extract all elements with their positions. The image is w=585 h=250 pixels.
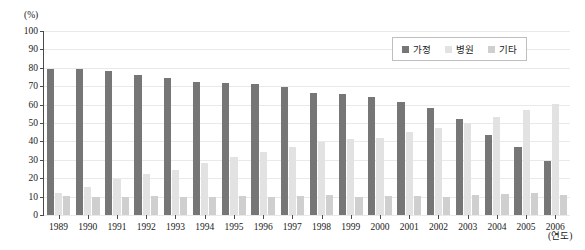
y-axis-tick-label: 0	[33, 210, 38, 220]
bar-hospital	[406, 132, 413, 215]
bar-hospital	[113, 179, 120, 215]
bar-hospital	[143, 174, 150, 215]
bar-other	[560, 195, 567, 215]
x-axis-tick	[409, 215, 410, 219]
x-axis-tick	[351, 215, 352, 219]
bar-home	[339, 94, 346, 215]
bar-home	[193, 82, 200, 215]
x-axis-tick-label: 2003	[458, 222, 477, 232]
bar-hospital	[55, 193, 62, 215]
legend-item-other: 기타	[488, 42, 517, 56]
x-axis-tick-label: 2004	[487, 222, 506, 232]
bar-hospital	[464, 123, 471, 215]
bar-home	[514, 147, 521, 215]
bar-home	[427, 108, 434, 215]
bar-hospital	[376, 138, 383, 215]
bar-other	[209, 197, 216, 215]
bar-other	[531, 193, 538, 215]
bar-group: 1996	[249, 31, 278, 215]
x-axis-caption: (연도)	[548, 228, 572, 242]
bar-group: 1995	[219, 31, 248, 215]
bar-group: 1991	[102, 31, 131, 215]
x-axis-tick	[380, 215, 381, 219]
y-axis-tick-label: 40	[29, 136, 39, 146]
x-axis-tick-label: 1998	[312, 222, 331, 232]
bar-home	[544, 161, 551, 215]
bar-other	[385, 196, 392, 215]
y-axis-tick-label: 50	[29, 118, 39, 128]
bar-group: 1999	[336, 31, 365, 215]
bar-home	[281, 87, 288, 215]
gridline: 0	[44, 215, 570, 216]
legend-label-hospital: 병원	[456, 42, 474, 56]
x-axis-tick	[555, 215, 556, 219]
bar-other	[63, 196, 70, 215]
y-axis-tick-label: 10	[29, 192, 39, 202]
y-axis-tick-label: 30	[29, 155, 39, 165]
bar-other	[326, 195, 333, 215]
x-axis-tick	[438, 215, 439, 219]
x-axis-tick	[292, 215, 293, 219]
x-axis-tick	[322, 215, 323, 219]
chart-legend: 가정 병원 기타	[392, 37, 527, 61]
bar-other	[268, 197, 275, 215]
legend-swatch-home-icon	[402, 46, 409, 53]
bar-group: 1992	[132, 31, 161, 215]
x-axis-tick	[205, 215, 206, 219]
x-axis-tick	[88, 215, 89, 219]
bar-group: 1997	[278, 31, 307, 215]
x-axis-tick-label: 1994	[195, 222, 214, 232]
bar-other	[501, 194, 508, 215]
bar-hospital	[230, 157, 237, 215]
x-axis-tick	[59, 215, 60, 219]
bar-home	[164, 78, 171, 215]
bar-hospital	[84, 187, 91, 215]
bar-home	[397, 102, 404, 215]
bar-hospital	[552, 104, 559, 215]
x-axis-tick-label: 2002	[429, 222, 448, 232]
x-axis-tick-label: 1995	[224, 222, 243, 232]
bar-other	[239, 196, 246, 215]
x-axis-tick-label: 1990	[78, 222, 97, 232]
bar-home	[134, 75, 141, 215]
x-axis-tick	[526, 215, 527, 219]
x-axis-tick	[263, 215, 264, 219]
x-axis-tick	[117, 215, 118, 219]
bar-home	[456, 119, 463, 215]
x-axis-tick-label: 1993	[166, 222, 185, 232]
bar-other	[151, 196, 158, 215]
x-axis-tick	[175, 215, 176, 219]
x-axis-tick-label: 2001	[400, 222, 419, 232]
bar-group: 1994	[190, 31, 219, 215]
legend-swatch-hospital-icon	[445, 46, 452, 53]
bar-group: 1998	[307, 31, 336, 215]
bar-hospital	[435, 128, 442, 215]
bar-hospital	[260, 152, 267, 215]
bar-hospital	[172, 170, 179, 215]
bar-group: 1993	[161, 31, 190, 215]
bar-other	[122, 197, 129, 215]
bar-group: 2000	[365, 31, 394, 215]
y-axis-tick	[40, 215, 44, 216]
x-axis-tick-label: 1991	[108, 222, 127, 232]
legend-label-home: 가정	[413, 42, 431, 56]
x-axis-tick-label: 1989	[49, 222, 68, 232]
bar-other	[443, 197, 450, 215]
bar-group: 1989	[44, 31, 73, 215]
bar-hospital	[318, 142, 325, 215]
bar-hospital	[347, 139, 354, 215]
bar-hospital	[201, 163, 208, 215]
bar-other	[297, 196, 304, 215]
y-axis-tick-label: 60	[29, 100, 39, 110]
bar-home	[310, 93, 317, 215]
x-axis-tick	[497, 215, 498, 219]
bar-group: 2006	[541, 31, 570, 215]
bar-home	[76, 69, 83, 215]
y-axis-tick-label: 20	[29, 173, 39, 183]
x-axis-tick-label: 1999	[341, 222, 360, 232]
x-axis-tick-label: 2005	[517, 222, 536, 232]
x-axis-tick-label: 1996	[254, 222, 273, 232]
bar-home	[105, 71, 112, 215]
x-axis-tick-label: 2000	[371, 222, 390, 232]
legend-item-home: 가정	[402, 42, 431, 56]
